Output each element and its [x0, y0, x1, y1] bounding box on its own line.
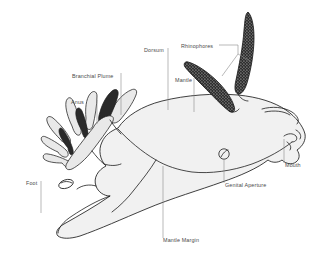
label-branchial-plume: Branchial Plume: [72, 73, 114, 79]
label-mantle-margin: Mantle Margin: [163, 237, 199, 243]
anatomy-illustration: Branchial Plume Anus Foot Dorsum Mantle …: [0, 0, 322, 261]
label-foot: Foot: [26, 180, 38, 186]
rhinophore-posterior-right: [235, 12, 254, 101]
label-dorsum: Dorsum: [144, 47, 164, 53]
nudibranch-anatomy-diagram: Branchial Plume Anus Foot Dorsum Mantle …: [0, 0, 322, 261]
label-rhinophores: Rhinophores: [181, 43, 213, 49]
label-anus: Anus: [71, 99, 84, 105]
label-mantle: Mantle: [175, 77, 192, 83]
label-mouth: Mouth: [285, 162, 301, 168]
label-genital-aperture: Genital Aperture: [225, 182, 266, 188]
